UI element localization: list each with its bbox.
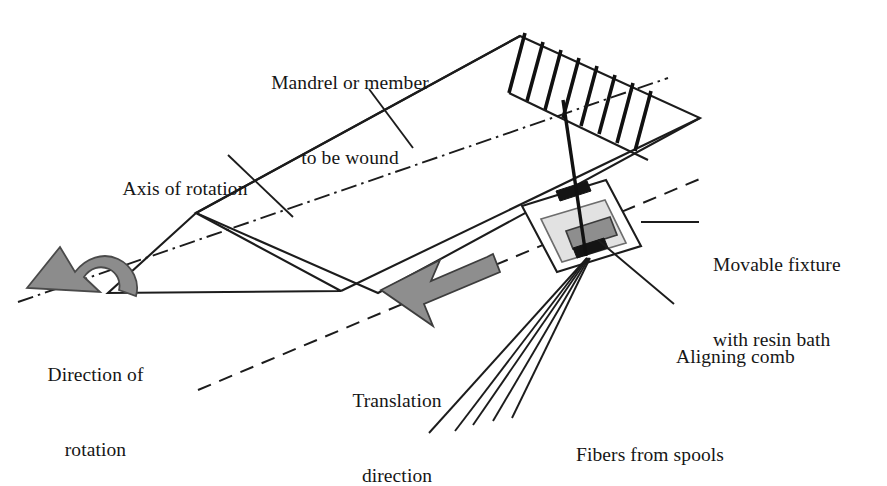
label-translation-direction-line2: direction bbox=[322, 463, 472, 486]
label-fibers-from-spools: Fibers from spools bbox=[576, 392, 806, 486]
fiber-strand bbox=[473, 258, 588, 425]
label-translation-direction-line1: Translation bbox=[322, 388, 472, 413]
label-movable-fixture-line1: Movable fixture bbox=[713, 252, 883, 277]
fiber-strand bbox=[455, 258, 587, 431]
label-aligning-comb-line1: Aligning comb bbox=[676, 344, 856, 369]
label-translation-direction: Translation direction bbox=[322, 338, 472, 486]
label-axis-of-rotation: Axis of rotation bbox=[100, 126, 270, 251]
label-axis-of-rotation-line1: Axis of rotation bbox=[100, 176, 270, 201]
label-mandrel-line1: Mandrel or member bbox=[250, 70, 450, 95]
rotation-arrow-shape bbox=[27, 247, 137, 296]
label-direction-of-rotation-line1: Direction of bbox=[18, 362, 173, 387]
label-fibers-from-spools-line1: Fibers from spools bbox=[576, 442, 806, 467]
leader-line-aligning-comb bbox=[598, 240, 674, 304]
label-mandrel-line2: to be wound bbox=[250, 145, 450, 170]
label-mandrel: Mandrel or member to be wound bbox=[250, 20, 450, 220]
fiber-strand bbox=[493, 258, 589, 421]
label-direction-of-rotation-line2: rotation bbox=[18, 437, 173, 462]
label-direction-of-rotation: Direction of rotation bbox=[18, 312, 173, 486]
rotation-arrow bbox=[27, 247, 137, 296]
